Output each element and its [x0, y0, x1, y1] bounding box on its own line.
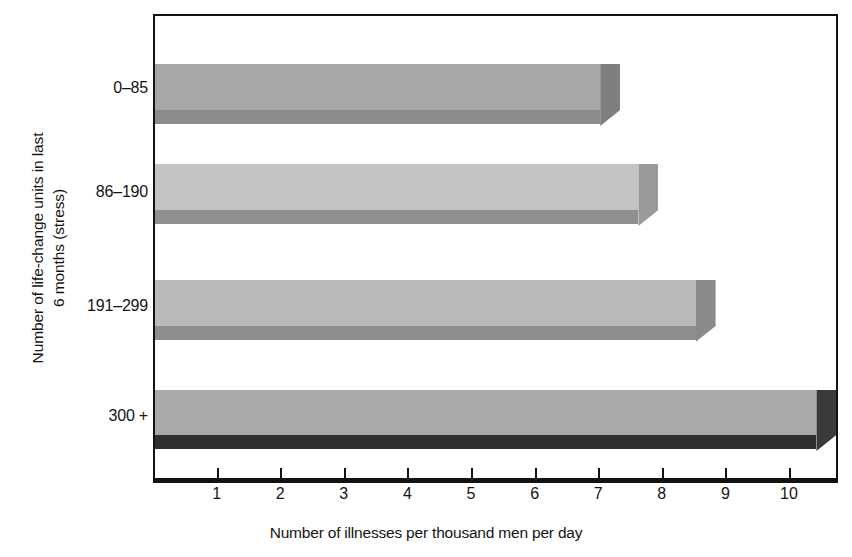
x-tick-2	[344, 468, 346, 480]
x-axis-line	[153, 480, 838, 483]
bar-2-highlight	[155, 340, 696, 342]
x-tick-7	[662, 468, 664, 480]
bar-2-end-cap	[696, 280, 716, 342]
bar-3	[155, 390, 836, 451]
bar-1-front-face	[155, 164, 638, 210]
x-tick-label-6: 7	[578, 485, 618, 503]
x-tick-label-8: 9	[705, 485, 745, 503]
y-tick-label-2: 191–299	[6, 297, 148, 315]
bar-0	[155, 64, 620, 126]
bar-2-front-face	[155, 280, 696, 326]
bar-1	[155, 164, 658, 226]
x-tick-label-1: 2	[260, 485, 300, 503]
bar-0-end-cap	[600, 64, 620, 126]
y-tick-label-3: 300 +	[6, 407, 148, 425]
x-tick-label-0: 1	[197, 485, 237, 503]
plot-area	[153, 14, 838, 480]
chart-figure: Number of life-change units in last 6 mo…	[0, 0, 852, 557]
x-tick-4	[471, 468, 473, 480]
x-tick-3	[407, 468, 409, 480]
bar-1-highlight	[155, 224, 638, 226]
x-tick-1	[280, 468, 282, 480]
x-tick-8	[725, 468, 727, 480]
bar-3-front-face	[155, 390, 816, 435]
x-tick-0	[217, 468, 219, 480]
bar-3-end-cap	[816, 390, 836, 451]
x-tick-5	[535, 468, 537, 480]
x-tick-label-2: 3	[324, 485, 364, 503]
x-axis: 12345678910	[153, 480, 838, 510]
x-tick-9	[789, 468, 791, 480]
x-axis-title: Number of illnesses per thousand men per…	[0, 524, 852, 542]
x-tick-label-3: 4	[387, 485, 427, 503]
x-tick-label-9: 10	[769, 485, 809, 503]
bar-0-highlight	[155, 124, 600, 126]
x-tick-label-7: 8	[642, 485, 682, 503]
x-tick-6	[598, 468, 600, 480]
bar-0-front-face	[155, 64, 600, 110]
y-tick-label-0: 0–85	[6, 79, 148, 97]
bar-1-end-cap	[638, 164, 658, 226]
y-tick-label-group: 0–85 86–190 191–299 300 +	[0, 0, 148, 557]
x-tick-label-4: 5	[451, 485, 491, 503]
y-tick-label-1: 86–190	[6, 183, 148, 201]
bar-3-highlight	[155, 449, 816, 451]
bar-2	[155, 280, 716, 342]
x-tick-label-5: 6	[515, 485, 555, 503]
